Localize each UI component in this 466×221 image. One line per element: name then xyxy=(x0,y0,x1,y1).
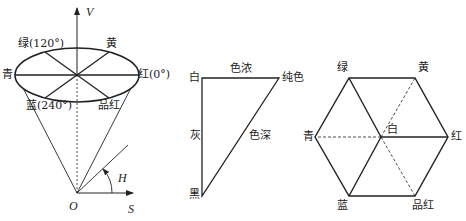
h-arc-arrow xyxy=(103,169,112,193)
hex-label-cyan: 青 xyxy=(303,131,314,143)
color-hexagon xyxy=(315,78,448,196)
label-green-120: 绿(120°) xyxy=(18,38,64,50)
label-blue-240: 蓝(240°) xyxy=(26,100,72,112)
tri-label-saturated: 色浓 xyxy=(230,63,252,75)
v-axis-label: V xyxy=(86,6,93,18)
dashed-center-magenta xyxy=(381,137,415,196)
tri-label-gray: 灰 xyxy=(190,130,201,142)
solid-center-green xyxy=(349,78,381,137)
h-label: H xyxy=(118,172,127,184)
hex-label-magenta: 品红 xyxy=(412,200,434,212)
solid-center-blue xyxy=(349,137,381,196)
tri-label-black: 黑 xyxy=(189,189,200,201)
hex-label-red: 红 xyxy=(451,131,462,143)
label-cyan: 青 xyxy=(2,69,13,81)
hex-label-white: 白 xyxy=(387,124,398,136)
hex-label-green: 绿 xyxy=(337,62,348,74)
hex-label-yellow: 黄 xyxy=(418,62,429,74)
h-line xyxy=(77,145,128,193)
origin-label: O xyxy=(69,200,78,212)
s-axis-label: S xyxy=(128,203,134,215)
tri-label-deep: 色深 xyxy=(249,130,271,142)
tri-label-white: 白 xyxy=(189,72,200,84)
tri-label-pure: 纯色 xyxy=(282,72,304,84)
hex-label-blue: 蓝 xyxy=(337,200,348,212)
label-magenta: 品红 xyxy=(98,100,120,112)
label-yellow: 黄 xyxy=(106,38,117,50)
label-red-0: 红(0°) xyxy=(138,69,170,81)
